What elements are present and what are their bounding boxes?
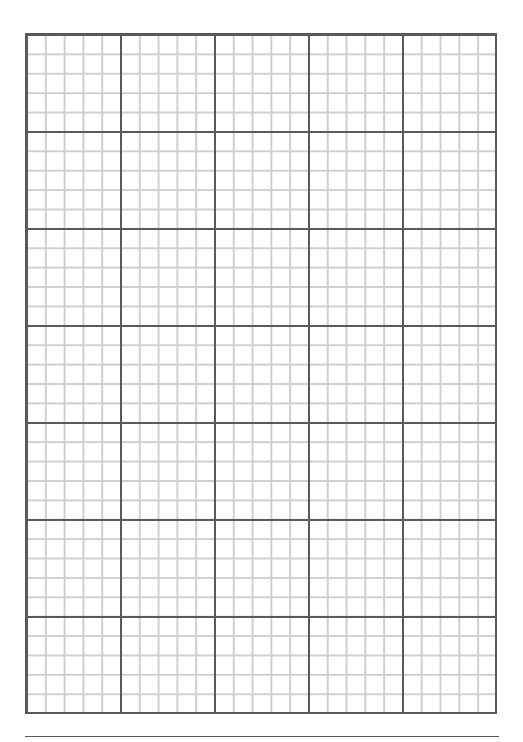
footer-rule-line — [25, 736, 499, 737]
graph-paper-grid — [25, 33, 497, 714]
